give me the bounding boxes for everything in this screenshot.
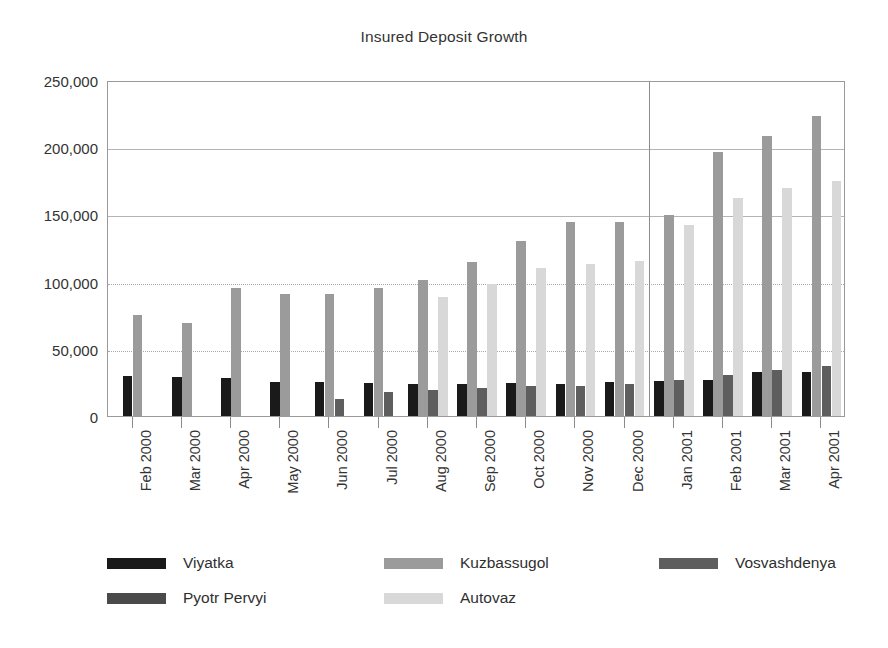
x-tick bbox=[279, 417, 280, 428]
chart-legend: ViyatkaKuzbassugolVosvashdenyaPyotr Perv… bbox=[107, 552, 867, 632]
bar bbox=[231, 288, 241, 416]
bar-group bbox=[157, 82, 206, 416]
x-tick bbox=[771, 417, 772, 428]
bar bbox=[364, 383, 374, 416]
bar bbox=[684, 225, 694, 416]
bar-group bbox=[502, 82, 551, 416]
bar bbox=[335, 399, 345, 416]
x-tick bbox=[378, 417, 379, 428]
bar bbox=[467, 262, 477, 416]
x-tick bbox=[574, 417, 575, 428]
bar bbox=[506, 383, 516, 416]
bar bbox=[605, 382, 615, 416]
bar bbox=[566, 222, 576, 416]
x-tick bbox=[230, 417, 231, 428]
bar bbox=[536, 268, 546, 416]
bar bbox=[487, 284, 497, 416]
bar bbox=[315, 382, 325, 416]
bar-group bbox=[206, 82, 255, 416]
bar bbox=[723, 375, 733, 416]
bar bbox=[418, 280, 428, 416]
legend-item[interactable]: Viyatka bbox=[107, 552, 234, 574]
x-tick bbox=[624, 417, 625, 428]
bar-group bbox=[403, 82, 452, 416]
bar bbox=[123, 376, 133, 416]
bar-group bbox=[551, 82, 600, 416]
legend-swatch bbox=[384, 558, 443, 569]
bar bbox=[812, 116, 822, 416]
bar-group bbox=[256, 82, 305, 416]
chart-figure: Insured Deposit Growth 050,000100,000150… bbox=[0, 0, 888, 648]
y-tick-label: 0 bbox=[6, 409, 98, 426]
x-tick-label: Jun 2000 bbox=[334, 430, 350, 490]
y-tick-label: 150,000 bbox=[6, 207, 98, 224]
legend-swatch bbox=[659, 558, 718, 569]
bar bbox=[802, 372, 812, 416]
bar bbox=[635, 261, 645, 416]
y-axis: 050,000100,000150,000200,000250,000 bbox=[0, 81, 98, 417]
bar bbox=[782, 188, 792, 416]
x-tick-label: May 2000 bbox=[285, 430, 301, 494]
plot-area bbox=[107, 81, 845, 417]
bar bbox=[674, 380, 684, 416]
legend-item[interactable]: Vosvashdenya bbox=[659, 552, 836, 574]
x-tick bbox=[328, 417, 329, 428]
legend-label: Kuzbassugol bbox=[460, 554, 549, 572]
legend-label: Viyatka bbox=[183, 554, 234, 572]
bar-group bbox=[108, 82, 157, 416]
x-tick bbox=[722, 417, 723, 428]
x-tick bbox=[427, 417, 428, 428]
y-tick-label: 100,000 bbox=[6, 274, 98, 291]
legend-item[interactable]: Pyotr Pervyi bbox=[107, 587, 267, 609]
bar bbox=[280, 294, 290, 416]
bar-group bbox=[797, 82, 846, 416]
legend-item[interactable]: Autovaz bbox=[384, 587, 516, 609]
bar bbox=[325, 294, 335, 416]
x-tick bbox=[476, 417, 477, 428]
y-tick-label: 250,000 bbox=[6, 73, 98, 90]
bar bbox=[586, 264, 596, 416]
legend-swatch bbox=[384, 593, 443, 604]
x-tick-label: Apr 2001 bbox=[826, 430, 842, 489]
x-tick bbox=[525, 417, 526, 428]
bar bbox=[664, 215, 674, 416]
x-tick-label: Sep 2000 bbox=[482, 430, 498, 492]
bar bbox=[703, 380, 713, 416]
bar bbox=[133, 315, 143, 416]
bar bbox=[762, 136, 772, 416]
bar bbox=[457, 384, 467, 416]
x-tick-label: Aug 2000 bbox=[433, 430, 449, 492]
bar bbox=[221, 378, 231, 416]
bar bbox=[374, 288, 384, 416]
legend-item[interactable]: Kuzbassugol bbox=[384, 552, 549, 574]
x-tick-label: Apr 2000 bbox=[236, 430, 252, 489]
x-tick-label: Jan 2001 bbox=[679, 430, 695, 490]
legend-label: Autovaz bbox=[460, 589, 516, 607]
x-tick-label: Nov 2000 bbox=[580, 430, 596, 492]
bar-group bbox=[698, 82, 747, 416]
bar bbox=[713, 152, 723, 416]
chart-title: Insured Deposit Growth bbox=[0, 28, 888, 46]
bar bbox=[654, 381, 664, 416]
bar-group bbox=[354, 82, 403, 416]
bar-group bbox=[452, 82, 501, 416]
bar bbox=[526, 386, 536, 416]
legend-swatch bbox=[107, 558, 166, 569]
bar bbox=[733, 198, 743, 416]
bar bbox=[438, 297, 448, 416]
x-tick-label: Jul 2000 bbox=[384, 430, 400, 485]
bar bbox=[556, 384, 566, 416]
x-tick-label: Feb 2001 bbox=[728, 430, 744, 491]
x-tick-label: Oct 2000 bbox=[531, 430, 547, 489]
bar bbox=[576, 386, 586, 416]
bar bbox=[182, 323, 192, 416]
bar bbox=[625, 384, 635, 416]
bar bbox=[477, 388, 487, 416]
bar bbox=[172, 377, 182, 416]
legend-label: Vosvashdenya bbox=[735, 554, 836, 572]
x-axis-ticks bbox=[107, 417, 845, 429]
bar bbox=[270, 382, 280, 416]
x-tick bbox=[820, 417, 821, 428]
y-tick-label: 50,000 bbox=[6, 341, 98, 358]
x-tick bbox=[673, 417, 674, 428]
